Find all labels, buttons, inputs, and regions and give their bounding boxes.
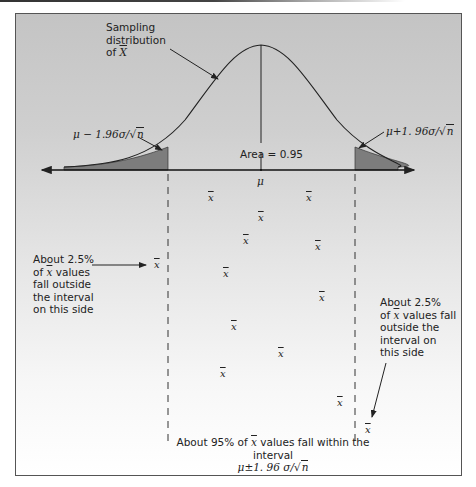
sample-mean-xbar: x (243, 236, 249, 246)
sampling-distribution-label: Sampling distribution of X (106, 21, 166, 59)
right-outside-note: About 2.5% of x values fall outside the … (380, 296, 456, 359)
area-label: Area = 0.95 (240, 148, 303, 161)
upper-bound-label: μ+1. 96σ/√n (386, 125, 454, 138)
label-line: of X (106, 46, 166, 59)
sample-mean-xbar: x (337, 398, 343, 408)
sampling-distribution-arrow (170, 49, 218, 79)
sample-mean-xbar: x (315, 242, 321, 252)
sample-mean-xbar: x (208, 193, 214, 203)
distribution-diagram (0, 0, 476, 487)
interval-formula: μ±1. 96 σ/√n (163, 461, 383, 474)
label-line: Sampling (106, 21, 166, 34)
right-note-arrow (372, 363, 386, 417)
sample-mean-xbar: x (365, 425, 371, 435)
within-interval-note: About 95% of x values fall within the in… (163, 436, 383, 474)
xbar-symbol: X (119, 46, 126, 58)
sample-mean-xbar: x (223, 269, 229, 279)
sample-mean-xbar: x (258, 213, 264, 223)
left-outside-note: About 2.5% of x values fall outside the … (33, 253, 94, 316)
sample-mean-xbar: x (231, 322, 237, 332)
sample-mean-xbar: x (319, 293, 325, 303)
sample-mean-xbar: x (278, 349, 284, 359)
sample-mean-xbar: x (220, 369, 226, 379)
sample-mean-xbar: x (154, 260, 160, 270)
sample-mean-xbar: x (306, 193, 312, 203)
upper-bound-arrow (359, 132, 384, 148)
normal-curve (64, 45, 401, 167)
mu-label: μ (257, 175, 264, 188)
lower-bound-label: μ − 1.96σ/√n (73, 128, 144, 141)
label-line: distribution (106, 34, 166, 47)
